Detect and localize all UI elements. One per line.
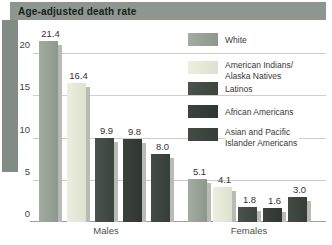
y-tick-label-0: 0 <box>10 208 30 220</box>
bar-shadow <box>142 143 146 222</box>
legend-label-3: African Americans <box>225 107 296 118</box>
y-tick-label-20: 20 <box>10 39 30 51</box>
bar-shadow <box>58 45 62 222</box>
bar-males-2: 9.9 <box>95 138 118 222</box>
bar-value-label: 1.6 <box>268 195 281 206</box>
bar-value-label: 9.8 <box>128 126 141 137</box>
bar-shadow <box>86 87 90 222</box>
bar-value-label: 9.9 <box>100 125 113 136</box>
legend-swatch-3 <box>188 105 218 118</box>
bar-shadow <box>282 212 286 222</box>
bar-value-label: 21.4 <box>41 28 60 39</box>
bar-face <box>67 83 86 222</box>
legend-label-1: American Indians/ Alaska Natives <box>225 60 295 81</box>
bar-face <box>39 41 58 222</box>
x-axis-label-males: Males <box>66 225 146 236</box>
legend-label-4: Asian and Pacific Islander Americans <box>225 127 299 148</box>
bar-face <box>213 187 232 222</box>
y-tick-label-15: 15 <box>10 81 30 93</box>
legend-swatch-0 <box>188 33 218 46</box>
gridline-20 <box>33 53 326 54</box>
bar-face <box>263 208 282 222</box>
bar-shadow <box>307 201 311 222</box>
bar-face <box>123 139 142 222</box>
bar-value-label: 1.8 <box>243 194 256 205</box>
bar-value-label: 5.1 <box>193 166 206 177</box>
bar-females-1: 4.1 <box>213 187 236 222</box>
age-adjusted-death-rate-figure: Age-adjusted death rate Males Females 05… <box>0 0 332 245</box>
bar-males-0: 21.4 <box>39 41 62 222</box>
bar-face <box>95 138 114 222</box>
bar-face <box>151 154 170 222</box>
bar-face <box>238 207 257 222</box>
bar-value-label: 4.1 <box>218 174 231 185</box>
bar-females-2: 1.8 <box>238 207 261 222</box>
bar-shadow <box>170 158 174 222</box>
bar-shadow <box>257 211 261 222</box>
bar-face <box>188 179 207 222</box>
bar-males-4: 8.0 <box>151 154 174 222</box>
bar-shadow <box>114 142 118 222</box>
bar-shadow <box>232 191 236 222</box>
bar-value-label: 8.0 <box>156 141 169 152</box>
legend-swatch-2 <box>188 82 218 95</box>
bar-value-label: 16.4 <box>69 70 88 81</box>
bar-value-label: 3.0 <box>293 184 306 195</box>
legend-label-0: White <box>225 35 249 46</box>
bar-females-0: 5.1 <box>188 179 211 222</box>
bar-females-4: 3.0 <box>288 197 311 222</box>
x-axis-label-females: Females <box>209 225 289 236</box>
plot-area: Males Females 0510152021.416.49.99.88.05… <box>0 0 332 245</box>
legend-swatch-4 <box>188 128 218 141</box>
bar-males-3: 9.8 <box>123 139 146 222</box>
bar-females-3: 1.6 <box>263 208 286 222</box>
bar-shadow <box>207 183 211 222</box>
legend-label-2: Latinos <box>225 84 254 95</box>
bar-males-1: 16.4 <box>67 83 90 222</box>
legend-swatch-1 <box>188 61 218 74</box>
y-tick-label-5: 5 <box>10 166 30 178</box>
bar-face <box>288 197 307 222</box>
y-tick-label-10: 10 <box>10 124 30 136</box>
